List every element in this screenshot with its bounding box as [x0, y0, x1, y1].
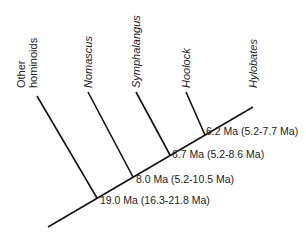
node-age-symphalangus-split: 6.7 Ma (5.2-8.6 Ma): [172, 148, 264, 160]
taxon-label-symphalangus: Symphalangus: [130, 15, 142, 88]
svg-text:hominoids: hominoids: [27, 37, 39, 88]
taxon-label-hoolock: Hoolock: [180, 48, 192, 88]
taxon-label-nomascus: Nomascus: [82, 36, 94, 88]
branch-other-hominoids: [37, 96, 97, 198]
svg-text:Other: Other: [15, 60, 27, 88]
node-age-hoolock-split: 6.2 Ma (5.2-7.7 Ma): [206, 125, 298, 137]
branch-hoolock: [186, 92, 205, 135]
node-age-nomascus-split: 8.0 Ma (5.2-10.5 Ma): [136, 173, 234, 185]
phylogenetic-tree: Other hominoids Nomascus Symphalangus Ho…: [0, 0, 306, 239]
taxon-label-other-hominoids: Other hominoids: [15, 37, 39, 88]
branch-nomascus: [88, 92, 133, 177]
taxon-label-hylobates: Hylobates: [247, 39, 259, 88]
node-age-root: 19.0 Ma (16.3-21.8 Ma): [100, 194, 210, 206]
branch-symphalangus: [136, 92, 170, 155]
